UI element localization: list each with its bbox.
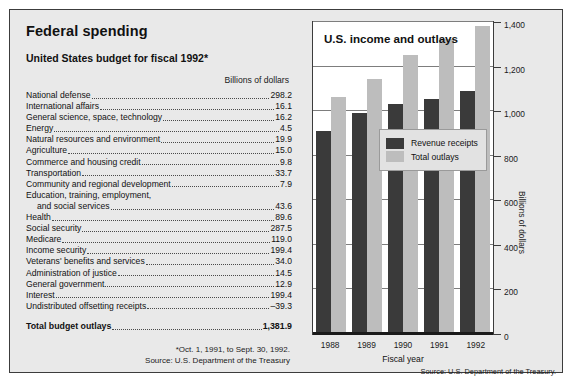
bar-revenue-1992: [460, 91, 475, 334]
row-value: 15.0: [275, 145, 292, 156]
x-tick-label-1989: 1989: [350, 340, 384, 350]
units-label: Billions of dollars: [26, 75, 289, 85]
footnote-period: *Oct. 1, 1991, to Sept. 30, 1992.: [26, 344, 290, 355]
table-row: Medicare119.0: [26, 234, 292, 245]
table-row: Administration of justice14.5: [26, 268, 292, 279]
chart-legend: Revenue receipts Total outlays: [379, 129, 487, 171]
leader-dots: [92, 97, 270, 99]
leader-dots: [147, 307, 269, 309]
row-value: 19.9: [275, 134, 292, 145]
row-value: 14.5: [275, 268, 292, 279]
total-value: 1,381.9: [263, 321, 292, 332]
x-axis-tick-labels: 19881989199019911992: [312, 340, 494, 350]
y-tick-label: 1,200: [504, 65, 525, 67]
x-tick-label-1991: 1991: [422, 340, 456, 350]
legend-swatch-outlays: [386, 151, 404, 162]
leader-dots: [54, 130, 279, 132]
row-value: –39.3: [270, 301, 292, 312]
table-row: Social security287.5: [26, 223, 292, 234]
table-row: Energy4.5: [26, 123, 292, 134]
bar-group-1992: [460, 22, 490, 334]
row-label: Community and regional development: [26, 179, 171, 190]
table-row: National defense298.2: [26, 90, 292, 101]
y-tick: [494, 111, 501, 112]
bar-revenue-1988: [316, 131, 331, 334]
leader-dots: [105, 285, 274, 287]
table-row: Agriculture15.0: [26, 145, 292, 156]
bar-outlays-1989: [367, 79, 382, 334]
table-row: International affairs16.1: [26, 101, 292, 112]
table-row: and social services43.6: [26, 201, 292, 212]
leader-dots: [82, 174, 274, 176]
plot-area: U.S. income and outlays Revenue receipts…: [312, 21, 494, 335]
bar-group-1989: [352, 22, 382, 334]
infographic-figure: Federal spending United States budget fo…: [9, 9, 563, 373]
row-label: General government: [26, 279, 104, 290]
row-label: Energy: [26, 123, 53, 134]
table-row-total: Total budget outlays 1,381.9: [26, 321, 292, 332]
row-label: Commerce and housing credit: [26, 157, 141, 168]
leader-dots: [163, 119, 274, 121]
leader-dots: [68, 152, 274, 154]
leader-dots: [152, 198, 291, 199]
y-tick-label: 1,000: [504, 109, 525, 111]
y-tick: [494, 245, 501, 246]
bar-outlays-1992: [475, 26, 490, 334]
row-label: National defense: [26, 90, 91, 101]
row-label: Social security: [26, 223, 81, 234]
y-tick-label: 200: [504, 287, 518, 289]
table-row: General science, space, technology16.2: [26, 112, 292, 123]
bar-outlays-1990: [403, 55, 418, 334]
table-row: Undistributed offsetting receipts–39.3: [26, 301, 292, 312]
leader-dots: [62, 241, 270, 243]
table-row: Community and regional development7.9: [26, 179, 292, 190]
x-tick-label-1990: 1990: [386, 340, 420, 350]
table-row: Education, training, employment,: [26, 190, 292, 201]
row-label: Veterans' benefits and services: [26, 256, 145, 267]
bar-revenue-1989: [352, 113, 367, 334]
y-tick-label: 400: [504, 243, 518, 245]
row-label: Natural resources and environment: [26, 134, 160, 145]
table-row: Interest199.4: [26, 290, 292, 301]
y-tick-label: 0: [504, 332, 509, 334]
row-label: Transportation: [26, 168, 81, 179]
table-row: Income security199.4: [26, 245, 292, 256]
table-row: Veterans' benefits and services34.0: [26, 256, 292, 267]
leader-dots: [56, 296, 270, 298]
row-label: Health: [26, 212, 51, 223]
row-value: 12.9: [275, 279, 292, 290]
leader-dots: [111, 208, 275, 210]
legend-label-revenue: Revenue receipts: [411, 138, 478, 148]
row-value: 7.9: [280, 179, 292, 190]
leader-dots: [118, 274, 275, 276]
budget-table: National defense298.2International affai…: [26, 90, 292, 312]
row-value: 287.5: [270, 223, 292, 234]
table-row: Commerce and housing credit9.8: [26, 157, 292, 168]
row-value: 16.2: [275, 112, 292, 123]
y-tick-label: 1,400: [504, 20, 525, 22]
table-footnotes: *Oct. 1, 1991, to Sept. 30, 1992. Source…: [26, 344, 292, 366]
legend-swatch-revenue: [386, 138, 404, 149]
footnote-source: Source: U.S. Department of the Treasury: [26, 355, 290, 366]
row-value: 33.7: [275, 168, 292, 179]
axis-baseline: [313, 332, 493, 335]
y-tick: [494, 334, 501, 335]
row-label: Medicare: [26, 234, 61, 245]
y-tick: [494, 67, 501, 68]
bar-group-1991: [424, 22, 454, 334]
chart-source-note: Source: U.S. Department of the Treasury.: [421, 367, 556, 376]
row-label: Income security: [26, 245, 86, 256]
row-value: 199.4: [270, 290, 292, 301]
x-tick-label-1992: 1992: [459, 340, 493, 350]
leader-dots: [142, 163, 279, 165]
bar-groups: [313, 22, 493, 334]
row-label: and social services: [26, 201, 110, 212]
chart-panel: U.S. income and outlays Revenue receipts…: [306, 10, 562, 372]
x-axis-title: Fiscal year: [312, 354, 494, 364]
row-value: 34.0: [275, 256, 292, 267]
row-value: 16.1: [275, 101, 292, 112]
row-value: 199.4: [270, 245, 292, 256]
leader-dots: [82, 230, 269, 232]
row-label: Agriculture: [26, 145, 67, 156]
row-value: 9.8: [280, 157, 292, 168]
